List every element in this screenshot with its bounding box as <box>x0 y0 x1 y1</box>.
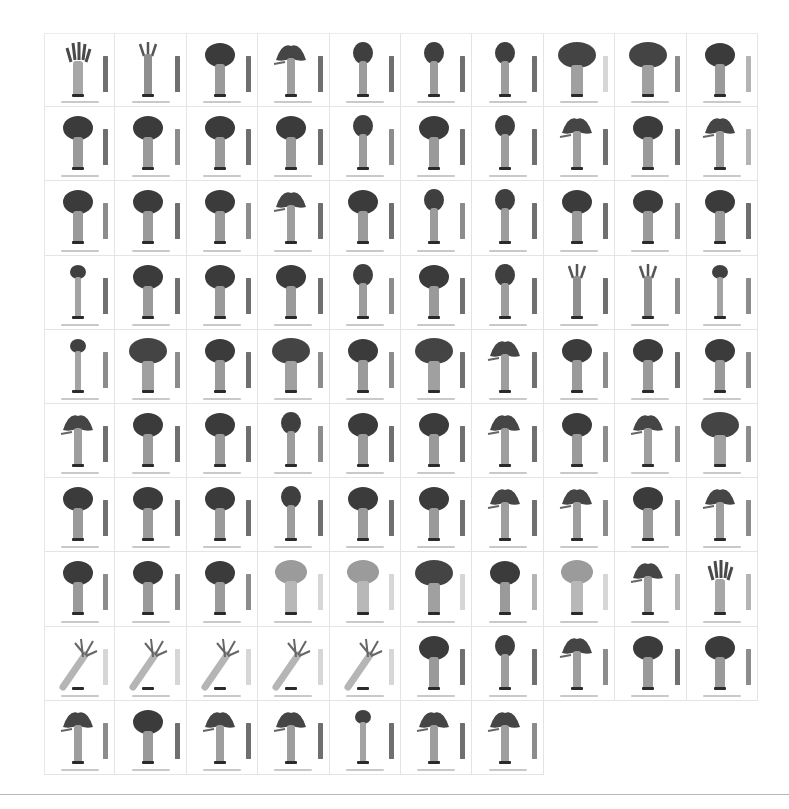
specimen-caption <box>474 470 540 475</box>
specimen-cell <box>258 256 329 330</box>
specimen-caption <box>546 99 612 104</box>
color-reference-bar <box>603 574 608 610</box>
broccoli-specimen-photo <box>55 633 101 691</box>
specimen-caption <box>403 99 469 104</box>
specimen-cell <box>687 107 758 181</box>
broccoli-specimen-photo <box>197 558 243 616</box>
specimen-cell <box>44 627 115 701</box>
specimen-caption <box>117 396 183 401</box>
specimen-caption <box>474 767 540 772</box>
specimen-cell <box>187 256 258 330</box>
color-reference-bar <box>175 56 180 92</box>
color-reference-bar <box>532 129 537 165</box>
broccoli-specimen-photo <box>125 336 171 394</box>
color-reference-bar <box>318 574 323 610</box>
color-reference-bar <box>175 352 180 388</box>
color-reference-bar <box>389 574 394 610</box>
specimen-caption <box>474 619 540 624</box>
specimen-caption <box>189 693 255 698</box>
specimen-figure <box>0 0 789 809</box>
specimen-caption <box>189 767 255 772</box>
broccoli-specimen-photo <box>411 336 457 394</box>
specimen-caption <box>332 544 398 549</box>
broccoli-specimen-photo <box>554 558 600 616</box>
broccoli-specimen-photo <box>340 558 386 616</box>
specimen-caption <box>47 470 112 475</box>
specimen-cell <box>544 627 615 701</box>
specimen-cell <box>401 478 472 552</box>
specimen-caption <box>117 248 183 253</box>
broccoli-specimen-photo <box>625 113 671 171</box>
broccoli-specimen-photo <box>697 113 743 171</box>
specimen-caption <box>260 544 326 549</box>
broccoli-specimen-photo <box>268 558 314 616</box>
color-reference-bar <box>103 278 108 314</box>
specimen-cell <box>258 701 329 775</box>
specimen-caption <box>617 544 683 549</box>
specimen-caption <box>403 470 469 475</box>
specimen-caption <box>332 767 398 772</box>
broccoli-specimen-photo <box>340 410 386 468</box>
broccoli-specimen-photo <box>268 113 314 171</box>
specimen-cell <box>187 330 258 404</box>
color-reference-bar <box>175 278 180 314</box>
color-reference-bar <box>175 203 180 239</box>
broccoli-specimen-photo <box>55 187 101 245</box>
specimen-cell <box>401 256 472 330</box>
specimen-cell <box>115 256 186 330</box>
broccoli-specimen-photo <box>697 484 743 542</box>
specimen-cell <box>44 181 115 255</box>
broccoli-specimen-photo <box>697 633 743 691</box>
broccoli-specimen-photo <box>197 40 243 98</box>
specimen-caption <box>689 173 755 178</box>
color-reference-bar <box>460 278 465 314</box>
specimen-caption <box>617 173 683 178</box>
specimen-cell <box>258 478 329 552</box>
specimen-cell <box>544 404 615 478</box>
color-reference-bar <box>103 649 108 685</box>
specimen-caption <box>546 470 612 475</box>
broccoli-specimen-photo <box>625 262 671 320</box>
specimen-caption <box>689 99 755 104</box>
specimen-cell <box>615 107 686 181</box>
color-reference-bar <box>175 500 180 536</box>
specimen-caption <box>189 173 255 178</box>
broccoli-specimen-photo <box>197 707 243 765</box>
specimen-caption <box>260 619 326 624</box>
specimen-cell <box>187 404 258 478</box>
color-reference-bar <box>675 352 680 388</box>
specimen-caption <box>260 396 326 401</box>
specimen-cell <box>187 627 258 701</box>
specimen-caption <box>546 693 612 698</box>
specimen-caption <box>117 99 183 104</box>
broccoli-specimen-photo <box>554 410 600 468</box>
broccoli-specimen-photo <box>482 40 528 98</box>
specimen-cell <box>544 33 615 107</box>
specimen-cell <box>472 701 543 775</box>
specimen-caption <box>332 248 398 253</box>
specimen-caption <box>47 173 112 178</box>
specimen-cell <box>330 627 401 701</box>
color-reference-bar <box>532 278 537 314</box>
footer-rule <box>0 794 789 795</box>
specimen-cell <box>258 33 329 107</box>
broccoli-specimen-photo <box>482 707 528 765</box>
specimen-cell <box>258 404 329 478</box>
specimen-cell <box>330 404 401 478</box>
specimen-cell <box>44 552 115 626</box>
specimen-cell <box>687 478 758 552</box>
specimen-caption <box>403 322 469 327</box>
broccoli-specimen-photo <box>197 336 243 394</box>
color-reference-bar <box>460 203 465 239</box>
color-reference-bar <box>532 203 537 239</box>
broccoli-specimen-photo <box>482 262 528 320</box>
color-reference-bar <box>603 649 608 685</box>
specimen-cell <box>44 256 115 330</box>
specimen-cell <box>687 404 758 478</box>
broccoli-specimen-photo <box>482 336 528 394</box>
specimen-caption <box>474 248 540 253</box>
specimen-caption <box>260 248 326 253</box>
color-reference-bar <box>389 352 394 388</box>
specimen-cell <box>615 33 686 107</box>
specimen-cell <box>615 256 686 330</box>
